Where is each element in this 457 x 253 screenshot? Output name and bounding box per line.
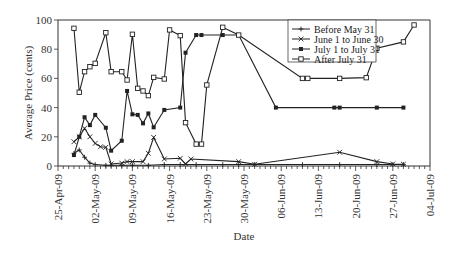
y-tick-label: 40 <box>41 102 53 114</box>
data-point-open-square <box>104 31 108 35</box>
data-point-plus <box>146 163 151 168</box>
data-point-filled-square <box>338 106 342 110</box>
x-tick-label: 20-Jun-09 <box>350 174 362 219</box>
data-point-filled-square <box>332 106 336 110</box>
y-tick-label: 0 <box>47 160 53 172</box>
x-axis-ticks: 25-Apr-0902-May-0909-May-0916-May-0923-M… <box>52 166 436 224</box>
data-point-open-square <box>146 93 150 97</box>
x-tick-label: 09-May-09 <box>126 174 138 224</box>
data-point-open-square <box>221 25 225 29</box>
data-point-filled-square <box>88 123 92 127</box>
data-point-open-square <box>401 40 405 44</box>
legend-label: After July 31 <box>314 54 367 65</box>
data-point-open-square <box>167 28 171 32</box>
data-point-filled-square <box>109 149 113 153</box>
data-point-filled-square <box>136 113 140 117</box>
y-tick-label: 60 <box>41 72 53 84</box>
data-point-filled-square <box>178 106 182 110</box>
y-tick-label: 20 <box>41 131 53 143</box>
data-point-open-square <box>120 69 124 73</box>
data-point-filled-square <box>125 89 129 93</box>
series-before-may-31 <box>72 148 406 168</box>
data-point-open-square <box>337 76 341 80</box>
data-point-filled-square <box>93 113 97 117</box>
data-point-x <box>82 126 87 131</box>
data-point-open-square <box>141 89 145 93</box>
data-point-filled-square <box>141 121 145 125</box>
data-point-open-square <box>109 69 113 73</box>
x-tick-label: 13-Jun-09 <box>312 174 324 219</box>
data-point-open-square <box>412 23 416 27</box>
data-point-filled-square <box>299 47 303 51</box>
data-point-filled-square <box>83 115 87 119</box>
data-point-filled-square <box>152 125 156 129</box>
data-point-filled-square <box>199 33 203 37</box>
data-point-filled-square <box>146 111 150 115</box>
data-point-open-square <box>236 33 240 37</box>
data-point-open-square <box>205 83 209 87</box>
data-point-filled-square <box>104 126 108 130</box>
data-point-open-square <box>151 75 155 79</box>
data-point-open-square <box>130 32 134 36</box>
data-point-open-square <box>162 77 166 81</box>
legend: Before May 31June 1 to June 30July 1 to … <box>288 20 383 65</box>
data-point-open-square <box>299 57 303 61</box>
data-point-open-square <box>72 26 76 30</box>
x-axis-title: Date <box>234 230 255 242</box>
data-point-filled-square <box>194 33 198 37</box>
data-point-open-square <box>199 142 203 146</box>
data-point-filled-square <box>274 106 278 110</box>
data-point-open-square <box>306 76 310 80</box>
x-tick-label: 27-Jun-09 <box>387 174 399 219</box>
x-tick-label: 30-May-09 <box>238 174 250 224</box>
data-point-open-square <box>82 69 86 73</box>
x-tick-label: 06-Jun-09 <box>275 174 287 219</box>
y-axis-ticks: 020406080100 <box>36 14 59 172</box>
y-tick-label: 100 <box>36 14 53 26</box>
data-point-filled-square <box>375 106 379 110</box>
data-point-filled-square <box>130 112 134 116</box>
data-point-plus <box>103 163 108 168</box>
data-point-open-square <box>125 78 129 82</box>
data-point-filled-square <box>184 51 188 55</box>
data-point-filled-square <box>401 106 405 110</box>
data-point-open-square <box>77 90 81 94</box>
data-point-filled-square <box>162 108 166 112</box>
x-tick-label: 16-May-09 <box>164 174 176 224</box>
data-point-x <box>87 134 92 139</box>
data-point-open-square <box>88 65 92 69</box>
data-point-filled-square <box>120 139 124 143</box>
data-point-open-square <box>93 61 97 65</box>
data-point-x <box>72 139 77 144</box>
y-axis-title: Average Price (cents) <box>22 45 35 140</box>
data-point-open-square <box>183 120 187 124</box>
x-tick-label: 04-Jul-09 <box>424 174 436 217</box>
data-point-x <box>93 141 98 146</box>
data-point-open-square <box>300 76 304 80</box>
x-tick-label: 02-May-09 <box>89 174 101 224</box>
line-chart: 020406080100 25-Apr-0902-May-0909-May-09… <box>0 0 457 253</box>
series-june-1-to-june-30 <box>72 126 406 167</box>
data-point-open-square <box>136 86 140 90</box>
data-point-filled-square <box>77 135 81 139</box>
data-point-open-square <box>194 142 198 146</box>
y-tick-label: 80 <box>41 43 53 55</box>
series-line <box>74 128 403 164</box>
data-point-filled-square <box>72 153 76 157</box>
data-point-open-square <box>364 75 368 79</box>
x-tick-label: 25-Apr-09 <box>52 174 64 221</box>
x-tick-label: 23-May-09 <box>201 174 213 224</box>
data-point-open-square <box>178 33 182 37</box>
